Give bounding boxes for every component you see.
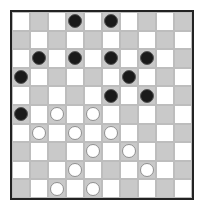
white-piece[interactable]: [50, 107, 64, 121]
board-square-r4c5[interactable]: [102, 86, 120, 105]
board-square-r6c1[interactable]: [30, 124, 48, 143]
board-square-r4c2: [48, 86, 66, 105]
board-square-r1c4[interactable]: [84, 31, 102, 50]
board-square-r5c7: [138, 105, 156, 124]
board-square-r7c9: [174, 142, 192, 161]
white-piece[interactable]: [68, 163, 82, 177]
board-square-r0c7[interactable]: [138, 12, 156, 31]
board-square-r0c5[interactable]: [102, 12, 120, 31]
board-square-r6c3[interactable]: [66, 124, 84, 143]
board-square-r9c2[interactable]: [48, 179, 66, 198]
board-square-r4c6: [120, 86, 138, 105]
white-piece[interactable]: [32, 126, 46, 140]
white-piece[interactable]: [86, 182, 100, 196]
board-square-r5c0[interactable]: [12, 105, 30, 124]
board-square-r2c3[interactable]: [66, 49, 84, 68]
board-square-r7c1: [30, 142, 48, 161]
board-square-r8c1[interactable]: [30, 161, 48, 180]
board-square-r5c8[interactable]: [156, 105, 174, 124]
board-square-r0c2: [48, 12, 66, 31]
draughts-board: [10, 10, 194, 200]
board-square-r6c9[interactable]: [174, 124, 192, 143]
board-square-r1c1: [30, 31, 48, 50]
black-piece[interactable]: [104, 89, 118, 103]
black-piece[interactable]: [104, 14, 118, 28]
board-square-r6c7[interactable]: [138, 124, 156, 143]
white-piece[interactable]: [140, 163, 154, 177]
white-piece[interactable]: [122, 144, 136, 158]
board-square-r8c5[interactable]: [102, 161, 120, 180]
board-square-r4c9[interactable]: [174, 86, 192, 105]
board-square-r7c4[interactable]: [84, 142, 102, 161]
board-square-r5c1: [30, 105, 48, 124]
board-square-r7c3: [66, 142, 84, 161]
black-piece[interactable]: [68, 51, 82, 65]
board-square-r2c1[interactable]: [30, 49, 48, 68]
board-square-r5c6[interactable]: [120, 105, 138, 124]
board-square-r3c7: [138, 68, 156, 87]
board-square-r3c2[interactable]: [48, 68, 66, 87]
white-piece[interactable]: [104, 126, 118, 140]
board-square-r4c4: [84, 86, 102, 105]
board-square-r9c1: [30, 179, 48, 198]
black-piece[interactable]: [104, 51, 118, 65]
white-piece[interactable]: [86, 144, 100, 158]
board-square-r3c6[interactable]: [120, 68, 138, 87]
black-piece[interactable]: [140, 89, 154, 103]
board-square-r9c4[interactable]: [84, 179, 102, 198]
board-square-r7c7: [138, 142, 156, 161]
black-piece[interactable]: [122, 70, 136, 84]
black-piece[interactable]: [14, 70, 28, 84]
board-square-r2c9[interactable]: [174, 49, 192, 68]
board-square-r6c8: [156, 124, 174, 143]
board-square-r7c6[interactable]: [120, 142, 138, 161]
board-square-r1c0[interactable]: [12, 31, 30, 50]
white-piece[interactable]: [68, 126, 82, 140]
board-square-r4c0: [12, 86, 30, 105]
board-square-r3c4[interactable]: [84, 68, 102, 87]
board-square-r7c8[interactable]: [156, 142, 174, 161]
board-square-r5c9: [174, 105, 192, 124]
board-square-r7c0[interactable]: [12, 142, 30, 161]
board-square-r1c6[interactable]: [120, 31, 138, 50]
board-square-r6c2: [48, 124, 66, 143]
board-square-r8c7[interactable]: [138, 161, 156, 180]
board-square-r9c7: [138, 179, 156, 198]
black-piece[interactable]: [68, 14, 82, 28]
board-square-r4c1[interactable]: [30, 86, 48, 105]
board-square-r1c7: [138, 31, 156, 50]
board-square-r9c3: [66, 179, 84, 198]
board-square-r9c9: [174, 179, 192, 198]
white-piece[interactable]: [50, 182, 64, 196]
board-square-r4c3[interactable]: [66, 86, 84, 105]
board-square-r3c0[interactable]: [12, 68, 30, 87]
board-square-r3c1: [30, 68, 48, 87]
board-square-r5c4[interactable]: [84, 105, 102, 124]
board-square-r1c2[interactable]: [48, 31, 66, 50]
board-square-r5c2[interactable]: [48, 105, 66, 124]
board-square-r4c7[interactable]: [138, 86, 156, 105]
board-square-r0c4: [84, 12, 102, 31]
board-square-r9c0[interactable]: [12, 179, 30, 198]
board-square-r9c8[interactable]: [156, 179, 174, 198]
board-square-r1c8[interactable]: [156, 31, 174, 50]
board-square-r2c8: [156, 49, 174, 68]
board-square-r6c6: [120, 124, 138, 143]
board-square-r2c5[interactable]: [102, 49, 120, 68]
board-square-r3c8[interactable]: [156, 68, 174, 87]
black-piece[interactable]: [32, 51, 46, 65]
board-square-r0c9[interactable]: [174, 12, 192, 31]
black-piece[interactable]: [14, 107, 28, 121]
board-square-r2c7[interactable]: [138, 49, 156, 68]
board-square-r7c2[interactable]: [48, 142, 66, 161]
board-square-r0c0: [12, 12, 30, 31]
board-square-r6c5[interactable]: [102, 124, 120, 143]
board-square-r0c3[interactable]: [66, 12, 84, 31]
board-square-r8c3[interactable]: [66, 161, 84, 180]
board-square-r9c6[interactable]: [120, 179, 138, 198]
black-piece[interactable]: [140, 51, 154, 65]
board-square-r3c5: [102, 68, 120, 87]
board-square-r0c1[interactable]: [30, 12, 48, 31]
board-square-r8c9[interactable]: [174, 161, 192, 180]
white-piece[interactable]: [86, 107, 100, 121]
